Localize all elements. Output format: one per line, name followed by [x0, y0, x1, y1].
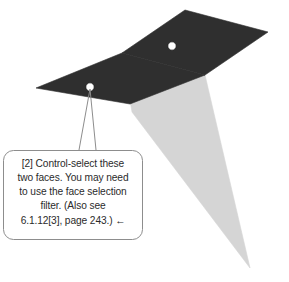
face-marker-upper-icon[interactable]	[168, 42, 176, 50]
callout-line-5-reference[interactable]: 6.1.12[3], page 243.) ←	[21, 215, 126, 226]
callout-line-4: filter. (Also see	[40, 200, 106, 211]
callout-line-1: [2] Control-select these	[22, 158, 125, 169]
callout-line-2: two faces. You may need	[18, 172, 129, 183]
figure-canvas: [2] Control-select these two faces. You …	[0, 0, 289, 282]
figure-root: [2] Control-select these two faces. You …	[0, 0, 289, 282]
callout-leader-left	[79, 89, 90, 150]
callout-line-3: to use the face selection	[19, 186, 126, 197]
